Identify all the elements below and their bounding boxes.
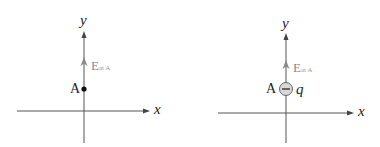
negative-charge-icon bbox=[280, 83, 293, 96]
axes-left bbox=[0, 0, 190, 147]
x-axis-label: x bbox=[358, 104, 365, 119]
field-label: Eat A bbox=[293, 61, 312, 74]
point-dot-icon bbox=[81, 86, 86, 91]
diagram-panel-right: y x A q Eat A bbox=[190, 0, 380, 147]
y-axis-label: y bbox=[80, 13, 87, 28]
y-axis-label: y bbox=[282, 16, 289, 31]
point-label: A bbox=[266, 82, 276, 96]
diagram-panel-left: y x A Eat A bbox=[0, 0, 190, 147]
field-label: Eat A bbox=[91, 59, 110, 72]
point-label: A bbox=[70, 82, 80, 96]
charge-label: q bbox=[296, 82, 304, 97]
x-axis-label: x bbox=[154, 102, 161, 117]
